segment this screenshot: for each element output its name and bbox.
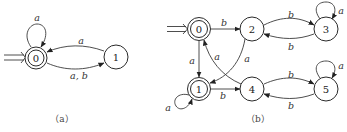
- svg-text:b: b: [288, 9, 294, 20]
- state-a-1: 1: [104, 45, 128, 69]
- start-arrow-b: [167, 24, 188, 34]
- svg-text:0: 0: [33, 53, 39, 64]
- svg-text:5: 5: [323, 84, 329, 95]
- state-b-2: 2: [240, 17, 264, 41]
- svg-text:2: 2: [249, 24, 255, 35]
- svg-text:b: b: [288, 100, 294, 111]
- edge-label: a, b: [70, 70, 88, 81]
- svg-text:a: a: [338, 60, 344, 71]
- svg-text:a: a: [189, 55, 195, 66]
- state-b-5: 5: [314, 77, 338, 101]
- start-arrow-a: [4, 52, 26, 63]
- svg-text:4: 4: [249, 84, 255, 95]
- state-b-4: 4: [240, 77, 264, 101]
- svg-text:b: b: [221, 17, 227, 28]
- edge-b-1-1: [175, 94, 192, 109]
- svg-text:1: 1: [113, 52, 119, 63]
- svg-text:a: a: [244, 53, 250, 64]
- state-a-0: 0: [25, 47, 47, 69]
- state-b-3: 3: [314, 17, 338, 41]
- svg-text:1: 1: [196, 84, 202, 95]
- edge-a-0-1: [47, 63, 104, 69]
- caption-a: （a）: [50, 114, 73, 124]
- svg-text:a: a: [214, 51, 220, 62]
- svg-text:a: a: [338, 5, 344, 16]
- caption-b: （b）: [246, 114, 270, 124]
- edge-label: a: [78, 35, 84, 46]
- svg-text:a: a: [165, 102, 171, 113]
- automata-diagram: a a a, b 0 1 （a） b a b: [0, 0, 347, 132]
- edge-a-1-0: [47, 46, 104, 52]
- edge-b-5-5: [316, 61, 335, 78]
- edge-label: a: [34, 12, 40, 23]
- edge-b-3-2: [264, 34, 314, 39]
- svg-text:3: 3: [323, 24, 329, 35]
- state-b-0: 0: [188, 18, 211, 41]
- edge-b-4-0: [204, 40, 241, 84]
- svg-text:b: b: [288, 41, 294, 52]
- figure-b: b a b b a a a a b b b a: [165, 2, 344, 124]
- edge-b-5-4: [264, 94, 314, 99]
- edge-b-3-3: [316, 2, 335, 19]
- state-b-1: 1: [188, 78, 211, 101]
- svg-text:0: 0: [196, 24, 202, 35]
- svg-text:b: b: [288, 69, 294, 80]
- figure-a: a a a, b 0 1 （a）: [4, 12, 128, 125]
- edge-a-0-0: [27, 24, 46, 47]
- svg-text:b: b: [220, 90, 226, 101]
